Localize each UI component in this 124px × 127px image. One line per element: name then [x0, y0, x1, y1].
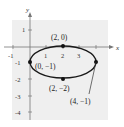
point-marker: [28, 60, 32, 64]
y-tick-label: -3: [15, 93, 20, 100]
y-tick-label: -4: [15, 109, 21, 116]
y-tick-label: -1: [15, 59, 20, 66]
point-marker: [61, 77, 65, 81]
point-label: (0, −1): [35, 62, 56, 71]
point-marker: [61, 44, 65, 48]
ellipse-diagram: x y -1 1 2 3 1 -1 -2 -3 -4 (2, 0) (0, −1…: [0, 0, 124, 127]
point-label: (4, −1): [70, 97, 91, 106]
x-tick-label: 1: [44, 52, 47, 59]
y-axis-label: y: [25, 6, 30, 14]
point-label: (2, −2): [49, 84, 70, 93]
y-tick-label: 1: [22, 26, 25, 33]
x-tick-label: -1: [8, 52, 13, 59]
y-tick-label: -2: [15, 76, 20, 83]
point-label: (2, 0): [51, 33, 68, 42]
x-tick-label: 3: [77, 52, 80, 59]
x-tick-label: 2: [61, 52, 64, 59]
x-axis-label: x: [115, 44, 120, 52]
x-axis-arrow-icon: [109, 45, 114, 49]
